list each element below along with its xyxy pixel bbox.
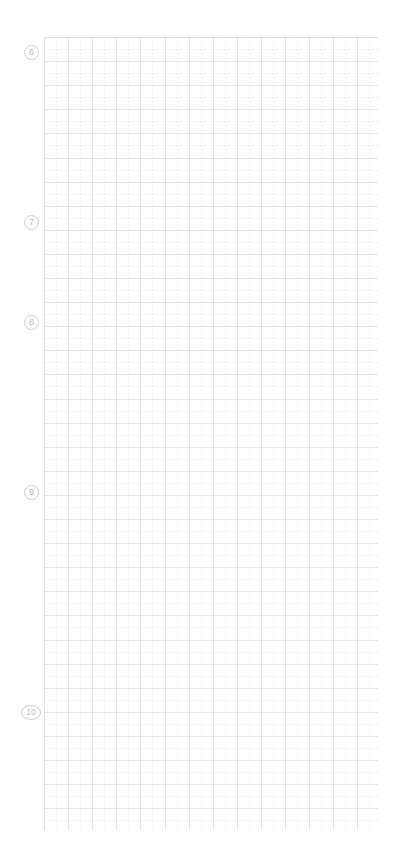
page-canvas: 6 7 8 9 10 (0, 0, 395, 847)
row-marker-8[interactable]: 8 (24, 315, 39, 330)
row-marker-9[interactable]: 9 (24, 485, 39, 500)
row-marker-label: 7 (29, 218, 34, 227)
row-marker-10[interactable]: 10 (21, 705, 41, 720)
row-marker-label: 6 (29, 48, 34, 57)
grid-dotted-columns (44, 37, 378, 830)
worksheet-grid[interactable] (44, 37, 378, 830)
row-marker-7[interactable]: 7 (24, 215, 39, 230)
row-marker-label: 9 (29, 488, 34, 497)
row-marker-label: 10 (26, 708, 35, 717)
row-marker-label: 8 (29, 318, 34, 327)
row-marker-6[interactable]: 6 (24, 45, 39, 60)
grid-dotted-rows (44, 37, 378, 830)
grid-fade-overlay (44, 37, 378, 830)
